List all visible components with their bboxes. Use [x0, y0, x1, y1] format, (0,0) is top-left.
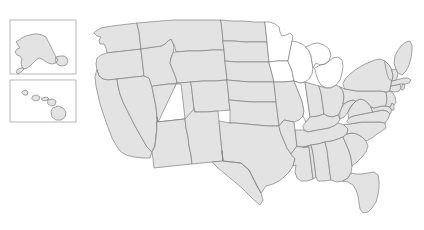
state-ok[interactable] — [229, 100, 279, 126]
state-hi-kauai[interactable] — [22, 90, 28, 95]
us-choropleth-map — [0, 0, 424, 230]
state-ne[interactable] — [225, 61, 274, 82]
state-sd[interactable] — [223, 41, 269, 62]
map-canvas — [0, 0, 424, 230]
state-ks[interactable] — [227, 80, 276, 102]
state-mt[interactable] — [137, 20, 224, 52]
state-hi-maui[interactable] — [48, 99, 56, 106]
state-nd[interactable] — [221, 20, 267, 42]
state-co[interactable] — [191, 80, 230, 112]
state-wy[interactable] — [170, 50, 227, 83]
state-hi-oahu[interactable] — [32, 95, 40, 101]
